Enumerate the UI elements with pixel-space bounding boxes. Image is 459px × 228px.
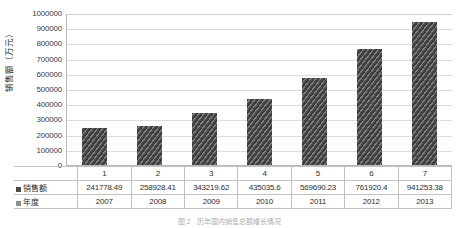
bar-cell	[67, 14, 122, 165]
table-cell-sales: 569690.23	[291, 181, 344, 195]
bar[interactable]	[302, 78, 327, 165]
table-cell-category: 6	[345, 167, 398, 181]
bar-cell	[232, 14, 287, 165]
bar[interactable]	[247, 99, 272, 165]
bar[interactable]	[357, 49, 382, 165]
table-cell-category: 1	[78, 167, 131, 181]
y-axis-tick-label: 200000	[37, 132, 63, 140]
table-row-label: 年度	[14, 195, 78, 209]
bar[interactable]	[137, 126, 162, 165]
legend-swatch-year	[16, 201, 21, 206]
table-cell-category: 3	[184, 167, 237, 181]
y-axis-tick-label: 1000000	[32, 10, 62, 18]
y-axis-tick-label: 300000	[37, 116, 63, 124]
y-axis-title: 销售额（万元）	[2, 0, 14, 125]
bar-series	[67, 14, 452, 165]
table-cell-year: 2011	[291, 195, 344, 209]
table-cell-year: 2012	[345, 195, 398, 209]
chart-data-table: 1234567销售额241778.49258928.41343219.62435…	[14, 166, 452, 209]
table-row-year: 年度2007200820092010201120122013	[14, 195, 452, 209]
plot-panel	[66, 14, 452, 166]
legend-swatch-sales	[16, 187, 21, 192]
table-cell-sales: 258928.41	[131, 181, 184, 195]
table-cell-year: 2008	[131, 195, 184, 209]
table-row-categories: 1234567	[14, 167, 452, 181]
figure-container: 销售额（万元） 10000009000008000007000006000005…	[0, 0, 459, 228]
bar-cell	[122, 14, 177, 165]
bar-cell	[342, 14, 397, 165]
table-cell-category: 5	[291, 167, 344, 181]
table-cell-year: 2010	[238, 195, 291, 209]
y-axis-tick-label: 400000	[37, 101, 63, 109]
table-cell-year: 2013	[398, 195, 451, 209]
bar[interactable]	[192, 113, 217, 165]
y-axis-tick-label: 700000	[37, 56, 63, 64]
table-cell-sales: 241778.49	[78, 181, 131, 195]
table-cell-year: 2009	[184, 195, 237, 209]
y-axis-tick-labels: 1000000900000800000700000600000500000400…	[14, 6, 62, 166]
table-cell-category: 4	[238, 167, 291, 181]
bar-cell	[177, 14, 232, 165]
bar[interactable]	[82, 128, 107, 165]
chart-plot-area: 销售额（万元） 10000009000008000007000006000005…	[0, 6, 459, 172]
table-row-sales: 销售额241778.49258928.41343219.62435035.656…	[14, 181, 452, 195]
table-cell-sales: 343219.62	[184, 181, 237, 195]
table-cell-year: 2007	[78, 195, 131, 209]
table-corner-blank	[14, 167, 78, 181]
y-axis-tick-label: 500000	[37, 86, 63, 94]
y-axis-tick-label: 100000	[37, 147, 63, 155]
y-axis-tick-label: 600000	[37, 71, 63, 79]
table-cell-sales: 435035.6	[238, 181, 291, 195]
table-cell-sales: 761920.4	[345, 181, 398, 195]
y-axis-tick-label: 900000	[37, 25, 63, 33]
bar[interactable]	[412, 22, 437, 165]
table-cell-category: 7	[398, 167, 451, 181]
table-cell-sales: 941253.38	[398, 181, 451, 195]
bar-cell	[397, 14, 452, 165]
figure-caption: 图 2 历年国内销售总额增长情况	[0, 216, 459, 226]
bar-cell	[287, 14, 342, 165]
table-cell-category: 2	[131, 167, 184, 181]
y-axis-tick-label: 800000	[37, 40, 63, 48]
table-row-label: 销售额	[14, 181, 78, 195]
